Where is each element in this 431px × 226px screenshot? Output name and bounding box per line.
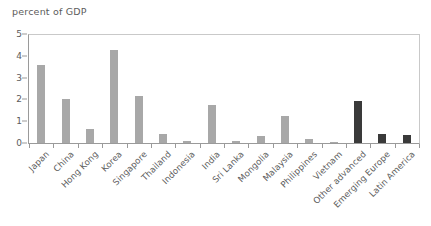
x-axis-tick-mark [346,144,347,148]
bar-slot [127,34,151,143]
x-axis-tick-mark [29,144,30,148]
bar-slot [175,34,199,143]
bar[interactable] [62,99,70,143]
bar-slot [273,34,297,143]
bar-slot [297,34,321,143]
bar[interactable] [208,105,216,143]
x-axis-tick-label: Japan [27,149,51,173]
x-axis-tick-mark [151,144,152,148]
x-axis-tick-mark [395,144,396,148]
bar-slot [102,34,126,143]
x-axis-tick-mark [297,144,298,148]
bar-slot [346,34,370,143]
bar[interactable] [281,116,289,143]
y-axis-tick-mark [22,121,27,122]
x-axis-tick-label: Latin America [367,149,417,199]
x-axis-tick-mark [78,144,79,148]
x-axis-tick-mark [322,144,323,148]
bar[interactable] [354,101,362,144]
bar-slot [370,34,394,143]
bar[interactable] [232,141,240,143]
x-axis-labels: JapanChinaHong KongKoreaSingaporeThailan… [29,149,419,219]
bar[interactable] [135,96,143,143]
y-axis-tick-mark [22,77,27,78]
x-axis-tick-mark [419,144,420,148]
bar[interactable] [378,134,386,143]
bar[interactable] [86,129,94,143]
bar[interactable] [183,141,191,143]
bar[interactable] [37,65,45,143]
bar-slot [53,34,77,143]
bar-slot [29,34,53,143]
bars-layer [29,34,419,143]
x-axis-tick-mark [175,144,176,148]
bar-slot [151,34,175,143]
bar[interactable] [305,139,313,143]
x-axis-tick-mark [248,144,249,148]
y-axis: 012345 [0,34,28,144]
chart-title: percent of GDP [12,6,87,17]
bar[interactable] [330,142,338,143]
y-axis-tick-mark [22,55,27,56]
bar-slot [224,34,248,143]
x-axis-tick-mark [127,144,128,148]
bar-slot [78,34,102,143]
bar-slot [395,34,419,143]
bar[interactable] [257,136,265,143]
bar-slot [322,34,346,143]
x-axis-tick-mark [224,144,225,148]
bar-slot [248,34,272,143]
x-axis-tick-mark [370,144,371,148]
bar[interactable] [159,134,167,143]
x-axis-tick-mark [102,144,103,148]
x-axis-tick-mark [200,144,201,148]
bar[interactable] [403,135,411,143]
bar-slot [200,34,224,143]
y-axis-tick-mark [22,143,27,144]
chart-container: percent of GDP 012345 JapanChinaHong Kon… [0,0,431,226]
y-axis-tick-mark [22,99,27,100]
x-axis-tick-mark [273,144,274,148]
bar[interactable] [110,50,118,143]
x-axis-tick-mark [53,144,54,148]
y-axis-tick-mark [22,34,27,35]
